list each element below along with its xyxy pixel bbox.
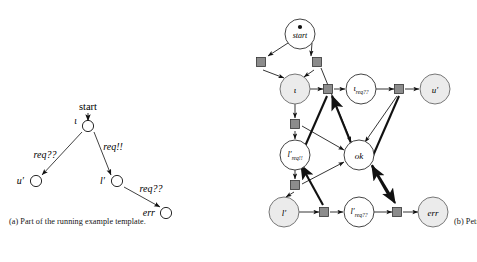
- place-iota[interactable]: ι: [280, 74, 310, 104]
- figure-panel-a: start req?? req!! req?? ι u′: [0, 0, 239, 232]
- state-node-err[interactable]: err: [143, 207, 172, 219]
- state-node-iota[interactable]: ι: [74, 116, 93, 132]
- place-label-err: err: [428, 208, 439, 218]
- state-label-iota: ι: [74, 116, 77, 126]
- place-lprime[interactable]: l′: [269, 197, 299, 227]
- place-lprime-req-send[interactable]: l′req!!: [280, 140, 310, 170]
- state-label-uprime: u′: [17, 175, 25, 186]
- petri-arcs-thin: [263, 43, 419, 212]
- token-dot: [298, 25, 302, 29]
- place-uprime[interactable]: u′: [420, 74, 450, 104]
- state-node-lprime[interactable]: l′: [100, 175, 123, 187]
- state-node-uprime[interactable]: u′: [17, 175, 42, 187]
- transition-t6[interactable]: [291, 181, 300, 190]
- place-label-ok: ok: [355, 151, 365, 161]
- petri-net-diagram: start ι ιreq?? u′ l′req!! ok: [239, 0, 477, 232]
- place-sublabel-lprime-recv: req??: [355, 212, 368, 218]
- transition-t1[interactable]: [257, 58, 266, 67]
- transition-t7[interactable]: [320, 208, 329, 217]
- figure-panel-b: start ι ιreq?? u′ l′req!! ok: [239, 0, 477, 232]
- figure-root: start req?? req!! req?? ι u′: [0, 0, 477, 262]
- edge-label-req-recv-1: req??: [34, 149, 57, 160]
- place-err[interactable]: err: [418, 197, 448, 227]
- place-start[interactable]: start: [285, 19, 315, 49]
- start-label: start: [79, 101, 97, 112]
- place-ok[interactable]: ok: [344, 140, 374, 170]
- place-lprime-req-recv[interactable]: l′req??: [344, 197, 374, 227]
- place-sublabel-iota-req: req??: [356, 89, 369, 95]
- state-machine-diagram: start req?? req!! req?? ι u′: [0, 0, 239, 232]
- caption-panel-b: (b) Petri net constructed from the proto…: [454, 217, 477, 226]
- place-sublabel-lprime-send: req!!: [292, 155, 303, 161]
- edge-lprime-err: req??: [124, 183, 162, 207]
- place-label-start: start: [293, 31, 308, 40]
- transition-t3[interactable]: [324, 85, 333, 94]
- transition-t4[interactable]: [395, 85, 404, 94]
- edge-label-req-send: req!!: [103, 141, 123, 152]
- edge-iota-uprime: req??: [34, 132, 82, 175]
- transition-t5[interactable]: [291, 120, 300, 129]
- transition-t8[interactable]: [393, 208, 402, 217]
- place-iota-req-recv[interactable]: ιreq??: [346, 74, 376, 104]
- caption-panel-a: (a) Part of the running example template…: [9, 217, 146, 226]
- place-label-uprime: u′: [432, 85, 440, 95]
- state-label-lprime: l′: [100, 175, 106, 186]
- transition-t2[interactable]: [313, 58, 322, 67]
- edge-iota-lprime: req!!: [94, 132, 123, 175]
- edge-label-req-recv-2: req??: [140, 183, 163, 194]
